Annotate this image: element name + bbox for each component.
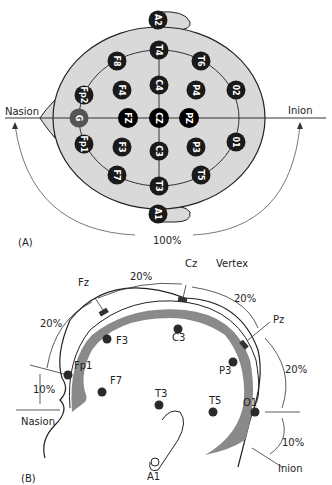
electrode-label: Fp2	[79, 87, 88, 104]
electrode-fp1: Fp1	[75, 135, 94, 154]
panel-a-top-view: Nasion Inion 100% (A) A2A1T4F8T6Fp202GFp…	[5, 11, 326, 249]
electrode-label: O1	[243, 397, 257, 408]
electrode-label: A2	[153, 14, 162, 26]
electrode-c3: C3	[172, 325, 185, 344]
electrode-p4: P4	[187, 81, 206, 100]
panel-b-label: (B)	[21, 473, 36, 484]
fz-label: Fz	[78, 277, 89, 288]
electrode-label: P3	[191, 141, 200, 152]
electrode-label: Fp1	[79, 136, 88, 153]
electrode-t5: T5	[208, 395, 221, 417]
electrode-a1: A1	[147, 471, 160, 482]
electrode-label: PZ	[184, 112, 193, 124]
electrode-label: F3	[116, 335, 128, 346]
electrode-f3: F3	[103, 335, 129, 347]
electrode-label: C3	[154, 145, 163, 156]
nasion-tick	[30, 365, 68, 375]
pz-pointer	[248, 322, 270, 340]
electrode-f3: F3	[113, 138, 132, 157]
electrode-label: G	[74, 115, 83, 122]
electrode-label: T4	[154, 44, 163, 55]
panel-b-side-view: Vertex Fz Cz Pz 20% 20% 20% 20% 10% 10% …	[16, 258, 307, 484]
electrode-fp2: Fp2	[75, 86, 94, 105]
electrode-dot	[251, 408, 260, 417]
electrode-label: C4	[154, 79, 163, 91]
electrode-t6: T6	[192, 52, 211, 71]
electrode-label: 01	[231, 136, 240, 148]
electrode-label: P3	[219, 365, 231, 376]
pct-nasion-fp1: 10%	[33, 384, 55, 395]
cz-pointer	[183, 285, 186, 298]
electrode-label: A1	[147, 471, 160, 482]
electrode-label: T5	[196, 169, 205, 180]
electrode-label: FZ	[123, 112, 132, 123]
electrode-c3: C3	[150, 142, 169, 161]
arc-fz-cz	[98, 283, 182, 298]
pct-fp1-fz: 20%	[40, 318, 62, 329]
inion-label-a: Inion	[288, 105, 313, 116]
eeg-10-20-diagram: Nasion Inion 100% (A) A2A1T4F8T6Fp202GFp…	[0, 0, 332, 485]
electrode-pz: PZ	[179, 108, 199, 128]
electrode-dot	[209, 408, 218, 417]
electrode-label: F7	[112, 169, 121, 180]
pct-o1-inion: 10%	[282, 437, 304, 448]
electrode-dot	[98, 388, 107, 397]
electrode-dot	[103, 335, 112, 344]
electrode-label: F8	[112, 55, 121, 66]
electrode-t3: T3	[154, 388, 167, 410]
electrode-label: T5	[208, 395, 221, 406]
arrow-right	[297, 122, 303, 129]
pct-pz-o1: 20%	[285, 364, 307, 375]
electrode-label: T3	[154, 180, 163, 191]
electrode-dot	[64, 371, 73, 380]
fz-marker	[99, 308, 109, 317]
electrode-01: 01	[227, 133, 246, 152]
pz-label: Pz	[273, 314, 284, 325]
electrode-p3: P3	[219, 358, 238, 377]
electrode-a1: A1	[149, 205, 168, 224]
nasion-label-b: Nasion	[21, 416, 55, 427]
electrode-label: 02	[231, 84, 240, 95]
electrode-label: F7	[110, 375, 122, 386]
electrode-t5: T5	[192, 166, 211, 185]
electrode-a2: A2	[149, 11, 168, 30]
ear-profile	[150, 411, 184, 471]
electrode-f7: F7	[98, 375, 123, 397]
electrode-t3: T3	[150, 177, 169, 196]
electrode-f8: F8	[108, 52, 127, 71]
panel-a-label: (A)	[18, 237, 33, 248]
electrode-cz: CZ	[149, 108, 169, 128]
electrode-p3: P3	[187, 138, 206, 157]
electrode-label: T3	[154, 388, 167, 399]
electrode-label: C3	[172, 332, 185, 343]
pct-fz-cz: 20%	[130, 271, 152, 282]
cz-label: Cz	[185, 258, 197, 269]
electrode-fz: FZ	[118, 108, 138, 128]
electrode-f4: F4	[113, 81, 132, 100]
arc-pz-o1	[265, 338, 286, 408]
electrode-label: A1	[153, 208, 162, 220]
vertex-label: Vertex	[216, 258, 248, 269]
electrode-label: F3	[117, 141, 126, 152]
electrode-dot	[155, 401, 164, 410]
electrode-label: Fp1	[74, 360, 92, 371]
arrow-left	[12, 122, 18, 129]
pct-cz-pz: 20%	[234, 293, 256, 304]
electrode-02: 02	[227, 81, 246, 100]
electrode-label: F4	[117, 84, 126, 95]
arc-o1-inion	[270, 418, 284, 454]
electrode-label: P4	[191, 84, 200, 96]
electrode-c4: C4	[150, 76, 169, 95]
electrode-label: T6	[196, 55, 205, 66]
electrode-label: CZ	[154, 112, 163, 124]
ear-canal	[151, 458, 159, 466]
electrode-g: G	[70, 109, 89, 128]
brain-band	[71, 309, 253, 455]
fz-pointer	[95, 298, 103, 310]
electrode-t4: T4	[150, 41, 169, 60]
nasion-label-a: Nasion	[5, 106, 39, 117]
electrode-f7: F7	[108, 166, 127, 185]
inion-label-b: Inion	[278, 463, 303, 474]
percent-100-label: 100%	[153, 235, 182, 246]
